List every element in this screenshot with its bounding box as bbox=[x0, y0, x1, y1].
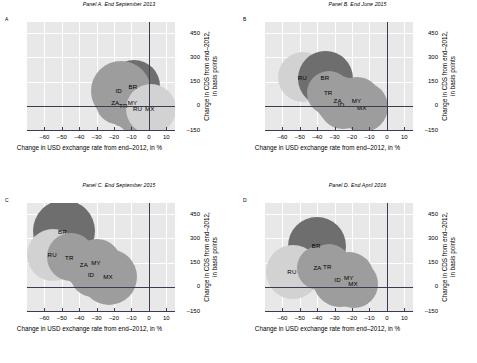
panel-d-plot-area: BRRUZATRIDMYMX bbox=[265, 203, 413, 311]
x-tick bbox=[404, 127, 405, 130]
y-zero-axis bbox=[149, 22, 150, 130]
x-tick bbox=[62, 308, 63, 311]
y-tick-label: –150 bbox=[416, 308, 438, 314]
bubble-label-tr: TR bbox=[324, 89, 332, 96]
x-tick bbox=[352, 127, 353, 130]
panel-d-title: Panel D. End April 2016 bbox=[238, 182, 477, 188]
x-tick bbox=[166, 127, 167, 130]
y-zero-axis bbox=[387, 203, 388, 311]
y-axis-title: Change in CDS from end–2012,in basis poi… bbox=[441, 18, 456, 134]
panel-c: Panel C. End September 2015 C BRRUTRZAMY… bbox=[0, 181, 238, 363]
y-tick-label: –150 bbox=[178, 127, 200, 133]
x-tick bbox=[166, 308, 167, 311]
x-axis-line bbox=[265, 130, 413, 131]
x-tick bbox=[300, 127, 301, 130]
x-tick bbox=[114, 308, 115, 311]
panel-b: Panel B. End June 2015 B RUBRTRZAIDMYMX … bbox=[238, 0, 477, 181]
bubble-label-tr: TR bbox=[323, 263, 331, 270]
panel-c-plot-area: BRRUTRZAMYIDMX bbox=[27, 203, 175, 311]
gridline-horizontal bbox=[27, 33, 175, 34]
bubble-label-id: ID bbox=[334, 276, 340, 283]
x-tick bbox=[335, 127, 336, 130]
bubble-label-br: BR bbox=[129, 83, 138, 90]
y-tick-label: 0 bbox=[178, 283, 200, 289]
bubble-label-id: ID bbox=[338, 101, 344, 108]
x-axis-line bbox=[27, 130, 175, 131]
x-axis-title: Change in USD exchange rate from end–201… bbox=[0, 325, 179, 332]
x-tick-label: 10 bbox=[392, 134, 416, 140]
y-tick-label: 150 bbox=[178, 78, 200, 84]
y-tick-label: 150 bbox=[416, 259, 438, 265]
bubble-label-tr: TR bbox=[65, 254, 73, 261]
y-zero-axis bbox=[149, 203, 150, 311]
gridline-vertical bbox=[404, 22, 405, 130]
x-axis-title: Change in USD exchange rate from end–201… bbox=[0, 144, 179, 151]
x-zero-axis bbox=[265, 106, 413, 107]
y-axis-title: Change in CDS from end–2012,in basis poi… bbox=[441, 199, 456, 315]
gridline-horizontal bbox=[265, 33, 413, 34]
gridline-horizontal bbox=[265, 214, 413, 215]
x-tick bbox=[404, 308, 405, 311]
bubble-label-ru: RU bbox=[48, 251, 57, 258]
y-tick-label: 0 bbox=[416, 283, 438, 289]
y-zero-axis bbox=[387, 22, 388, 130]
panel-a-letter: A bbox=[5, 16, 8, 22]
x-tick bbox=[317, 308, 318, 311]
x-tick bbox=[317, 127, 318, 130]
bubble-label-za: ZA bbox=[313, 264, 321, 271]
panel-b-title: Panel B. End June 2015 bbox=[238, 1, 477, 7]
x-tick bbox=[79, 308, 80, 311]
bubble-label-za: ZA bbox=[80, 261, 88, 268]
x-tick bbox=[387, 127, 388, 130]
y-tick-label: 450 bbox=[416, 30, 438, 36]
gridline-vertical bbox=[79, 22, 80, 130]
bubble-label-br: BR bbox=[58, 228, 67, 235]
x-zero-axis bbox=[265, 287, 413, 288]
panel-c-title: Panel C. End September 2015 bbox=[0, 182, 238, 188]
gridline-vertical bbox=[44, 22, 45, 130]
y-tick-label: 150 bbox=[178, 259, 200, 265]
y-tick-label: 450 bbox=[416, 211, 438, 217]
y-axis-title: Change in CDS from end–2012,in basis poi… bbox=[203, 18, 218, 134]
x-tick bbox=[131, 308, 132, 311]
x-tick bbox=[44, 308, 45, 311]
x-zero-axis bbox=[27, 106, 175, 107]
panel-c-letter: C bbox=[5, 197, 9, 203]
gridline-vertical bbox=[62, 22, 63, 130]
bubble-label-mx: MX bbox=[103, 273, 112, 280]
x-tick bbox=[387, 308, 388, 311]
x-tick bbox=[369, 127, 370, 130]
x-axis-line bbox=[265, 311, 413, 312]
x-tick bbox=[97, 308, 98, 311]
x-axis-title: Change in USD exchange rate from end–201… bbox=[238, 144, 417, 151]
x-tick bbox=[131, 127, 132, 130]
gridline-vertical bbox=[131, 203, 132, 311]
y-axis-title: Change in CDS from end–2012,in basis poi… bbox=[203, 199, 218, 315]
y-tick-label: 300 bbox=[178, 54, 200, 60]
x-axis-line bbox=[27, 311, 175, 312]
bubble-label-id: ID bbox=[116, 87, 122, 94]
x-tick-label: 10 bbox=[154, 315, 178, 321]
y-tick-label: 0 bbox=[178, 102, 200, 108]
x-tick-label: 10 bbox=[154, 134, 178, 140]
y-tick-label: 450 bbox=[178, 211, 200, 217]
gridline-horizontal bbox=[27, 57, 175, 58]
x-tick bbox=[352, 308, 353, 311]
x-tick bbox=[300, 308, 301, 311]
panel-b-plot-area: RUBRTRZAIDMYMX bbox=[265, 22, 413, 130]
bubble-label-br: BR bbox=[312, 242, 321, 249]
x-tick bbox=[97, 127, 98, 130]
x-tick bbox=[282, 308, 283, 311]
panel-a: Panel A. End September 2013 A BRIDZATRMY… bbox=[0, 0, 238, 181]
y-tick-label: –150 bbox=[416, 127, 438, 133]
y-tick-label: 150 bbox=[416, 78, 438, 84]
gridline-vertical bbox=[166, 203, 167, 311]
bubble-label-mx: MX bbox=[357, 104, 366, 111]
bubble-label-my: MY bbox=[91, 259, 100, 266]
panel-a-plot-area: BRIDZATRMYRUMX bbox=[27, 22, 175, 130]
bubble-label-br: BR bbox=[320, 74, 329, 81]
figure-panel-grid: Panel A. End September 2013 A BRIDZATRMY… bbox=[0, 0, 477, 363]
panel-a-title: Panel A. End September 2013 bbox=[0, 1, 238, 7]
gridline-vertical bbox=[404, 203, 405, 311]
x-tick bbox=[44, 127, 45, 130]
